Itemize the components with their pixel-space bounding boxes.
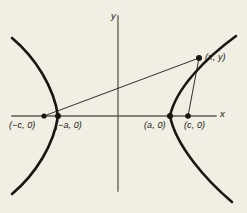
x-axis-label: x <box>220 108 225 119</box>
right-hyperbola-branch <box>170 36 236 202</box>
point-left-vertex <box>55 113 61 119</box>
segment-left-focus-to-point <box>44 58 199 116</box>
hyperbola-diagram: (−c, 0) (−a, 0) (a, 0) (c, 0) (x, y) x y <box>0 0 247 213</box>
segment-right-focus-to-point <box>188 58 199 116</box>
label-right-focus: (c, 0) <box>184 120 205 130</box>
point-right-vertex <box>167 113 173 119</box>
y-axis-label: y <box>111 10 116 21</box>
label-point-on-curve: (x, y) <box>205 52 226 62</box>
diagram-canvas <box>0 0 247 213</box>
point-right-focus <box>185 113 191 119</box>
label-left-focus: (−c, 0) <box>9 120 35 130</box>
label-right-vertex: (a, 0) <box>144 120 166 130</box>
point-on-curve <box>196 55 202 61</box>
label-left-vertex: (−a, 0) <box>55 120 82 130</box>
point-left-focus <box>41 113 46 118</box>
